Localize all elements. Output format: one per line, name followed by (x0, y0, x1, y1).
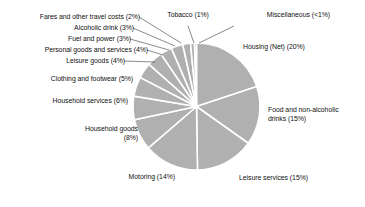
label-household-services: Household services (6%) (0, 96, 128, 105)
leader-line-miscellaneous (199, 26, 234, 43)
label-miscellaneous: Miscellaneous (<1%) (210, 10, 330, 19)
label-housing-net: Housing (Net) (20%) (243, 42, 365, 51)
label-alcoholic-drink: Alcoholic drink (3%) (0, 23, 134, 32)
label-personal-goods-and-services: Personal goods and services (4%) (0, 45, 148, 54)
leader-line-tobacco (188, 26, 194, 43)
label-household-goods: Household goods (8%) (0, 124, 138, 143)
label-motoring: Motoring (14%) (0, 172, 175, 181)
label-leisure-services: Leisure services (15%) (239, 173, 365, 182)
label-clothing-and-footwear: Clothing and footwear (5%) (0, 74, 133, 83)
label-fuel-and-power: Fuel and power (3%) (0, 34, 131, 43)
leader-line-fares (139, 17, 181, 43)
leader-line-leisure-goods (124, 61, 155, 62)
label-leisure-goods: Leisure goods (4%) (0, 56, 125, 65)
label-fares-and-other-travel-costs: Fares and other travel costs (2%) (0, 12, 140, 21)
leader-line-personal-goods (147, 50, 163, 55)
label-food-and-non-alcoholic-drinks: Food and non-alcoholic drinks (15%) (268, 105, 365, 124)
leader-line-alcoholic (133, 28, 175, 46)
pie-chart: Fares and other travel costs (2%) Alcoho… (0, 0, 365, 207)
